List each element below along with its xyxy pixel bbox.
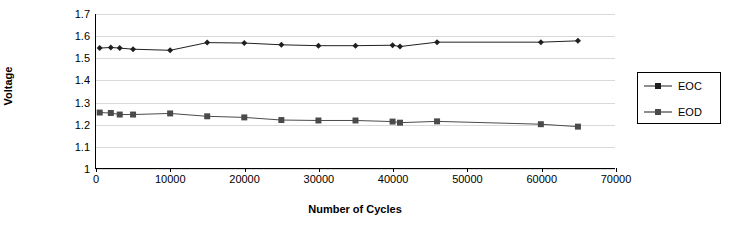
data-point-marker xyxy=(434,118,440,124)
x-axis-tick-label: 70000 xyxy=(601,173,632,185)
chart-container: Voltage 11.11.21.31.41.51.61.7 010000200… xyxy=(0,0,731,228)
y-axis-tick-label: 1.6 xyxy=(75,30,90,42)
x-axis-tick xyxy=(616,168,617,172)
x-axis-tick-label: 40000 xyxy=(378,173,409,185)
data-point-marker xyxy=(97,110,103,116)
series-eod xyxy=(97,110,581,130)
x-axis-tick xyxy=(393,168,394,172)
x-axis-tick xyxy=(245,168,246,172)
data-point-marker xyxy=(130,112,136,118)
y-axis-tick-label: 1.1 xyxy=(75,141,90,153)
x-axis-tick xyxy=(96,168,97,172)
legend-label: EOD xyxy=(678,106,702,118)
legend-item-eoc: EOC xyxy=(638,73,720,99)
data-point-marker xyxy=(130,46,136,52)
data-point-marker xyxy=(397,120,403,126)
x-axis-tick xyxy=(319,168,320,172)
y-axis-tick-label: 1.4 xyxy=(75,74,90,86)
series-layer xyxy=(96,14,615,168)
data-point-marker xyxy=(97,45,103,51)
series-eoc xyxy=(97,38,581,53)
x-axis-tick xyxy=(467,168,468,172)
x-axis-tick xyxy=(170,168,171,172)
data-point-marker xyxy=(108,44,114,50)
data-point-marker xyxy=(390,42,396,48)
data-point-marker xyxy=(353,43,359,49)
data-point-marker xyxy=(241,114,247,120)
x-axis-tick xyxy=(542,168,543,172)
x-axis-tick-label: 10000 xyxy=(155,173,186,185)
legend-label: EOC xyxy=(678,80,702,92)
x-axis-tick-label: 0 xyxy=(93,173,99,185)
data-point-marker xyxy=(278,117,284,123)
legend-item-eod: EOD xyxy=(638,99,720,125)
data-point-marker xyxy=(167,110,173,116)
x-axis-tick-label: 30000 xyxy=(304,173,335,185)
x-axis-tick-label: 50000 xyxy=(452,173,483,185)
data-point-marker xyxy=(117,45,123,51)
data-point-marker xyxy=(538,39,544,45)
chart-legend: EOC EOD xyxy=(637,72,721,124)
data-point-marker xyxy=(204,40,210,46)
data-point-marker xyxy=(575,38,581,44)
y-axis-tick-label: 1.3 xyxy=(75,97,90,109)
data-point-marker xyxy=(108,110,114,116)
data-point-marker xyxy=(117,112,123,118)
data-point-marker xyxy=(538,121,544,127)
x-axis-title: Number of Cycles xyxy=(308,203,402,215)
data-point-marker xyxy=(315,117,321,123)
data-point-marker xyxy=(204,113,210,119)
data-point-marker xyxy=(278,42,284,48)
y-axis-tick-label: 1.5 xyxy=(75,52,90,64)
data-point-marker xyxy=(241,40,247,46)
data-point-marker xyxy=(167,47,173,53)
x-axis-tick-label: 60000 xyxy=(526,173,557,185)
y-axis-tick-label: 1.2 xyxy=(75,119,90,131)
data-point-marker xyxy=(434,39,440,45)
data-point-marker xyxy=(397,44,403,50)
legend-marker-diamond-icon xyxy=(644,80,672,92)
x-axis-tick-label: 20000 xyxy=(229,173,260,185)
y-axis-title: Voltage xyxy=(2,67,14,106)
plot-area: 11.11.21.31.41.51.61.7 01000020000300004… xyxy=(95,14,615,169)
y-axis-tick-label: 1 xyxy=(84,163,90,175)
legend-marker-square-icon xyxy=(644,106,672,118)
data-point-marker xyxy=(390,119,396,125)
data-point-marker xyxy=(575,124,581,130)
y-axis-tick-label: 1.7 xyxy=(75,8,90,20)
gridline xyxy=(96,169,615,170)
data-point-marker xyxy=(315,43,321,49)
data-point-marker xyxy=(353,117,359,123)
